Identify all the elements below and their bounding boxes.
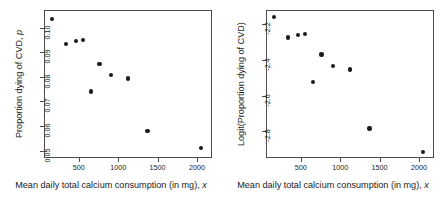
y-tick-label: 0.10 [43,32,52,46]
x-tick-label: 2000 [399,163,439,172]
data-point [348,67,352,71]
data-point [81,38,85,42]
data-point [296,33,300,37]
data-point [367,126,371,130]
plot-area-left [45,11,211,157]
x-tick [301,158,302,162]
data-point [272,15,276,19]
x-tick [340,158,341,162]
y-tick-label: 0.07 [43,106,52,120]
data-point [311,80,315,84]
x-axis-title-variable: x [202,180,207,190]
x-tick [118,158,119,162]
y-tick-label: -2.4 [263,64,272,76]
data-point [89,89,93,93]
data-point [126,76,130,80]
data-point [50,17,54,21]
panel-proportion-cvd: 5001000150020000.050.060.070.080.090.10 … [0,0,222,205]
x-tick [158,158,159,162]
y-axis-title: Logit(Proportion dying of CVD) [236,22,246,146]
y-tick-label: -2.2 [263,29,272,41]
x-tick-label: 1000 [320,163,360,172]
x-tick-label: 1500 [138,163,178,172]
x-axis-title: Mean daily total calcium consumption (in… [222,180,444,190]
x-axis-title-variable: x [424,180,429,190]
y-tick-label: 0.08 [43,81,52,95]
data-point [199,146,203,150]
y-axis-title-text: Proportion dying of CVD, [14,35,24,138]
data-point [319,52,323,56]
x-tick-label: 2000 [177,163,217,172]
x-tick-label: 1500 [360,163,400,172]
data-point [97,62,101,66]
panel-logit-cvd: 500100015002000-2.2-2.4-2.6-2.8 Mean dai… [222,0,444,205]
data-point [303,32,307,36]
data-point [109,73,113,77]
x-axis-title-text: Mean daily total calcium consumption (in… [237,180,424,190]
x-tick [419,158,420,162]
data-point [64,42,68,46]
x-axis-title-text: Mean daily total calcium consumption (in… [15,180,202,190]
y-axis-title: Proportion dying of CVD, p [14,30,24,138]
figure-two-panel-scatter: 5001000150020000.050.060.070.080.090.10 … [0,0,445,205]
x-tick-label: 1000 [98,163,138,172]
plot-area-right [267,11,433,157]
y-tick-label: 0.06 [43,131,52,145]
x-tick [197,158,198,162]
data-point [74,39,78,43]
x-tick-label: 500 [59,163,99,172]
data-point [145,129,149,133]
plot-frame-left [44,10,212,158]
y-tick-label: -2.8 [263,136,272,148]
data-point [331,64,335,68]
y-axis-title-variable: p [14,30,24,35]
y-tick-label: -2.6 [263,100,272,112]
x-tick [79,158,80,162]
y-axis-title-text: Logit(Proportion dying of CVD) [236,22,246,146]
y-tick-label: 0.09 [43,57,52,71]
x-tick [380,158,381,162]
data-point [286,35,290,39]
x-axis-title: Mean daily total calcium consumption (in… [0,180,222,190]
y-tick-label: 0.05 [43,155,52,169]
plot-frame-right [266,10,434,158]
data-point [421,150,425,154]
x-tick-label: 500 [281,163,321,172]
